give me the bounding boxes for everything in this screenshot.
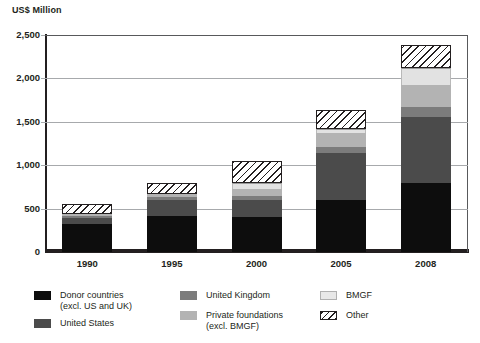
x-axis-ticks: 19901995200020052008	[45, 258, 468, 274]
chart-page: US$ Million 05001,0001,5002,0002,500 199…	[0, 0, 480, 343]
legend-column: BMGFOther	[320, 290, 470, 330]
bar-segment[interactable]	[401, 183, 451, 252]
legend-swatch-icon	[180, 311, 197, 320]
bar-segment[interactable]	[316, 153, 366, 200]
y-tick-label: 2,500	[0, 30, 40, 40]
y-axis-title: US$ Million	[12, 5, 62, 15]
legend-label: Donor countries (excl. US and UK)	[60, 290, 132, 312]
legend-swatch-icon	[180, 291, 197, 300]
bar-segment[interactable]	[401, 117, 451, 183]
legend-item[interactable]: BMGF	[320, 290, 470, 304]
bar-2000[interactable]	[232, 161, 282, 252]
x-tick-label: 1995	[161, 258, 182, 269]
bar-segment[interactable]	[316, 133, 366, 147]
bar-segment[interactable]	[62, 204, 112, 214]
legend-item[interactable]: United Kingdom	[180, 290, 320, 304]
legend-item[interactable]: Private foundations (excl. BMGF)	[180, 310, 320, 332]
bar-segment[interactable]	[232, 161, 282, 184]
y-tick-label: 500	[0, 204, 40, 214]
legend-swatch-icon	[320, 311, 337, 320]
bars-layer	[45, 35, 468, 252]
bar-2005[interactable]	[316, 110, 366, 252]
y-tick-label: 0	[0, 247, 40, 257]
legend-swatch-icon	[34, 291, 51, 300]
bar-1995[interactable]	[147, 183, 197, 252]
bar-segment[interactable]	[147, 216, 197, 252]
bar-segment[interactable]	[147, 200, 197, 216]
bar-segment[interactable]	[147, 183, 197, 194]
legend-label: United Kingdom	[206, 290, 270, 301]
chart-legend: Donor countries (excl. US and UK)United …	[34, 290, 464, 338]
y-axis-ticks: 05001,0001,5002,0002,500	[0, 35, 40, 252]
bar-segment[interactable]	[232, 217, 282, 252]
bar-segment[interactable]	[401, 45, 451, 68]
legend-label: United States	[60, 318, 114, 329]
y-tick-label: 1,500	[0, 117, 40, 127]
bar-1990[interactable]	[62, 204, 112, 252]
y-tick-label: 1,000	[0, 160, 40, 170]
legend-column: Donor countries (excl. US and UK)United …	[34, 290, 184, 338]
bar-segment[interactable]	[316, 110, 366, 129]
legend-label: BMGF	[346, 290, 372, 301]
bar-segment[interactable]	[316, 200, 366, 252]
legend-column: United KingdomPrivate foundations (excl.…	[180, 290, 320, 338]
y-tick-label: 2,000	[0, 73, 40, 83]
bar-segment[interactable]	[401, 107, 451, 117]
legend-item[interactable]: Donor countries (excl. US and UK)	[34, 290, 184, 312]
x-tick-label: 2008	[415, 258, 436, 269]
x-tick-label: 2005	[331, 258, 352, 269]
legend-item[interactable]: United States	[34, 318, 184, 332]
legend-swatch-icon	[320, 291, 337, 300]
x-tick-label: 2000	[246, 258, 267, 269]
legend-label: Other	[346, 310, 369, 321]
bar-segment[interactable]	[232, 200, 282, 217]
x-tick-label: 1990	[77, 258, 98, 269]
bar-segment[interactable]	[232, 189, 282, 196]
bar-segment[interactable]	[401, 68, 451, 84]
bar-segment[interactable]	[62, 224, 112, 252]
legend-label: Private foundations (excl. BMGF)	[206, 310, 283, 332]
legend-swatch-icon	[34, 319, 51, 328]
bar-segment[interactable]	[401, 85, 451, 108]
bar-2008[interactable]	[401, 45, 451, 252]
legend-item[interactable]: Other	[320, 310, 470, 324]
